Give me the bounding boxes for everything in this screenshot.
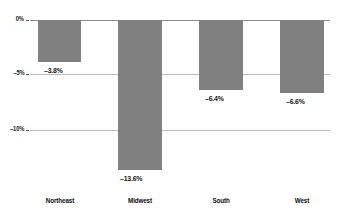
y-axis-tick-dash-0 — [26, 20, 29, 21]
category-label-west: West — [277, 196, 327, 205]
bar-northeast — [38, 20, 81, 62]
y-axis-tick-label-minus10: –10% — [10, 125, 24, 132]
bar-west — [280, 20, 324, 93]
y-axis-tick-minus5: –5% — [0, 69, 24, 79]
y-axis-tick-label-minus5: –5% — [13, 69, 24, 76]
bar-south — [199, 20, 243, 90]
category-label-south: South — [196, 196, 246, 205]
value-label-south: –6.4% — [205, 94, 224, 103]
value-label-west: –6.6% — [286, 97, 305, 106]
value-label-northeast: –3.8% — [44, 66, 63, 75]
category-label-midwest: Midwest — [115, 196, 165, 205]
category-label-northeast: Northeast — [35, 196, 85, 205]
gridline-minus10 — [30, 130, 330, 131]
bar-chart: 0% –5% –10% –3.8% –13.6% –6.4% –6.6% Nor… — [0, 0, 340, 222]
y-axis-tick-minus10: –10% — [0, 125, 24, 135]
y-axis-tick-dash-minus5 — [26, 74, 29, 75]
bar-midwest — [118, 20, 162, 170]
y-axis-tick-dash-minus10 — [26, 130, 29, 131]
value-label-midwest: –13.6% — [120, 174, 142, 183]
y-axis-tick-0: 0% — [0, 15, 24, 25]
y-axis-tick-label-0: 0% — [16, 15, 24, 22]
